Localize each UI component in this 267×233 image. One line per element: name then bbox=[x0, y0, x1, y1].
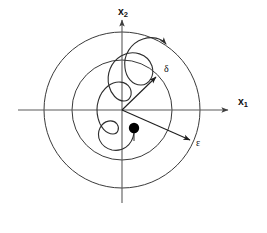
delta-vector bbox=[122, 77, 156, 110]
x2-axis-label: x2 bbox=[118, 6, 128, 18]
x2-axis-label-subscript: 2 bbox=[124, 10, 128, 19]
phase-plane-figure: x2 x1 δ ε bbox=[0, 0, 267, 233]
delta-label: δ bbox=[164, 64, 169, 74]
epsilon-label: ε bbox=[196, 138, 200, 148]
x1-axis-label: x1 bbox=[238, 96, 248, 108]
initial-condition-dot bbox=[129, 123, 139, 133]
diagram-canvas bbox=[0, 0, 267, 233]
state-trajectory-path bbox=[97, 38, 166, 151]
x1-axis-label-subscript: 1 bbox=[244, 100, 248, 109]
